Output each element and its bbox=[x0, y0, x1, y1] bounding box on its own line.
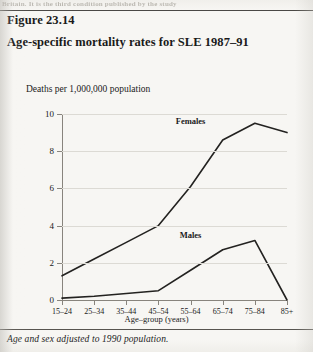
gridline bbox=[62, 114, 287, 115]
series-label-males: Males bbox=[180, 230, 202, 240]
gridline bbox=[62, 151, 287, 152]
gridline bbox=[62, 226, 287, 227]
y-axis-label: Deaths per 1,000,000 population bbox=[26, 84, 150, 94]
cropped-body-text-top: Britain. It is the third condition publi… bbox=[0, 0, 313, 9]
line-chart: Deaths per 1,000,000 population 02468101… bbox=[0, 62, 313, 324]
gridline bbox=[62, 263, 287, 264]
series-label-females: Females bbox=[176, 116, 206, 126]
horizontal-rule-bottom bbox=[0, 329, 313, 330]
x-axis-tick bbox=[158, 300, 159, 305]
y-axis-tick-label: 4 bbox=[50, 221, 55, 231]
figure-number: Figure 23.14 bbox=[7, 13, 75, 28]
x-axis-tick bbox=[191, 300, 192, 305]
x-axis-label: Age–group (years) bbox=[0, 314, 313, 324]
plot-area: 024681015–2425–3435–4445–5455–6465–7475–… bbox=[62, 114, 287, 300]
y-axis-tick-label: 0 bbox=[50, 295, 55, 305]
y-axis-tick bbox=[57, 151, 62, 152]
series-line-males bbox=[62, 240, 287, 300]
series-line-females bbox=[62, 123, 287, 276]
x-axis-tick bbox=[287, 300, 288, 305]
y-axis-tick-label: 6 bbox=[50, 183, 55, 193]
y-axis-tick bbox=[57, 114, 62, 115]
figure-page: Britain. It is the third condition publi… bbox=[0, 0, 313, 352]
gridline bbox=[62, 188, 287, 189]
figure-title: Age-specific mortality rates for SLE 198… bbox=[7, 35, 249, 50]
y-axis-tick-label: 10 bbox=[45, 109, 54, 119]
y-axis-tick-label: 8 bbox=[50, 146, 55, 156]
x-axis-line bbox=[62, 300, 287, 301]
x-axis-tick bbox=[62, 300, 63, 305]
horizontal-rule-top bbox=[0, 10, 313, 11]
y-axis-tick-label: 2 bbox=[50, 258, 55, 268]
x-axis-tick bbox=[94, 300, 95, 305]
y-axis-tick bbox=[57, 226, 62, 227]
y-axis-tick bbox=[57, 263, 62, 264]
series-lines bbox=[62, 114, 287, 300]
figure-note: Age and sex adjusted to 1990 population. bbox=[7, 334, 169, 344]
x-axis-tick bbox=[255, 300, 256, 305]
x-axis-tick bbox=[126, 300, 127, 305]
x-axis-tick bbox=[223, 300, 224, 305]
y-axis-tick bbox=[57, 188, 62, 189]
